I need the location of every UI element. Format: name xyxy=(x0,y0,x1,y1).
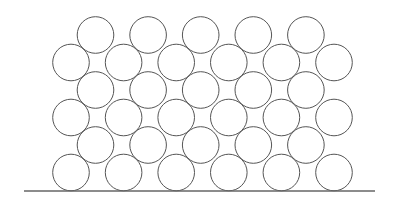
circle-r4-c6 xyxy=(316,99,353,136)
circle-r6-c6 xyxy=(316,154,353,191)
circle-r6-c2 xyxy=(105,154,142,191)
circles-group xyxy=(53,17,353,191)
circle-r2-c6 xyxy=(316,44,353,81)
circle-packing-diagram xyxy=(0,0,396,208)
circle-r6-c1 xyxy=(53,154,90,191)
circle-r6-c3 xyxy=(158,154,195,191)
circle-r6-c4 xyxy=(211,154,248,191)
circle-r6-c5 xyxy=(263,154,300,191)
